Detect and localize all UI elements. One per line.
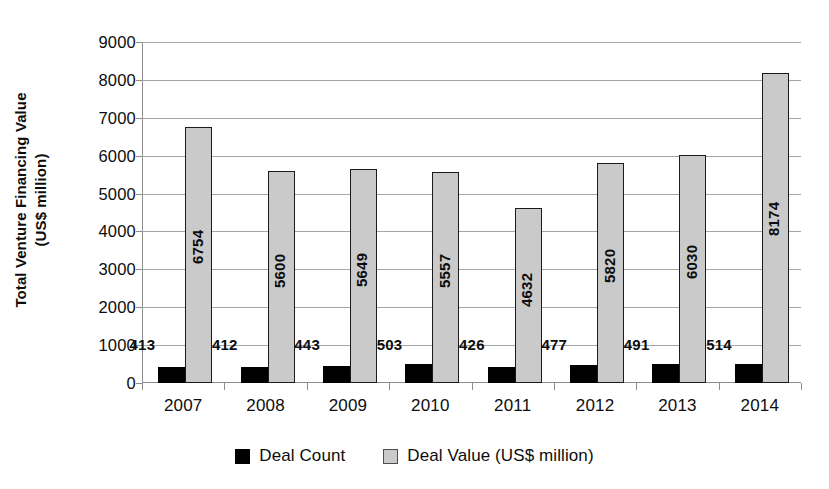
data-label-deal-count: 514	[706, 336, 732, 353]
bar-deal-count	[158, 367, 185, 383]
x-tick-label: 2013	[658, 396, 697, 416]
y-tick-label: 1000	[62, 336, 136, 355]
legend-item[interactable]: Deal Value (US$ million)	[383, 446, 593, 466]
y-tick-label: 6000	[62, 146, 136, 165]
data-label-deal-count: 491	[624, 336, 650, 353]
y-axis-title-line2: (US$ million)	[31, 92, 51, 307]
y-axis-title-line1: Total Venture Financing Value	[12, 92, 29, 307]
data-label-deal-value: 5649	[353, 252, 370, 286]
data-label-deal-value: 4632	[518, 273, 535, 307]
plot-area: 4136754412560044356495035557426463247758…	[142, 42, 801, 383]
data-label-deal-count: 426	[459, 336, 485, 353]
bar-group: 4435649	[307, 42, 389, 383]
data-label-deal-value: 8174	[765, 202, 782, 236]
data-label-deal-count: 477	[541, 336, 567, 353]
y-axis-title: Total Venture Financing Value (US$ milli…	[0, 0, 62, 400]
bar-deal-count	[735, 364, 762, 383]
legend-swatch-deal-value-icon	[383, 449, 398, 464]
data-label-deal-value: 5600	[271, 253, 288, 287]
data-label-deal-count: 412	[212, 336, 238, 353]
legend-label: Deal Count	[259, 446, 345, 466]
x-tick-mark	[389, 383, 390, 390]
bar-deal-count	[323, 366, 350, 383]
legend-swatch-deal-count-icon	[235, 449, 250, 464]
bar-deal-count	[570, 365, 597, 383]
data-label-deal-value: 5557	[436, 254, 453, 288]
bar-chart: Total Venture Financing Value (US$ milli…	[0, 0, 829, 489]
x-tick-mark	[307, 383, 308, 390]
x-tick-label: 2007	[164, 396, 203, 416]
x-tick-mark	[801, 383, 802, 390]
bar-group: 5148174	[719, 42, 801, 383]
data-label-deal-count: 503	[377, 336, 403, 353]
legend-label: Deal Value (US$ million)	[407, 446, 593, 466]
y-tick-label: 3000	[62, 260, 136, 279]
bar-deal-count	[405, 364, 432, 383]
bar-group: 4136754	[142, 42, 224, 383]
data-label-deal-count: 413	[130, 336, 156, 353]
bar-deal-count	[488, 367, 515, 383]
x-tick-mark	[142, 383, 143, 390]
legend-item[interactable]: Deal Count	[235, 446, 345, 466]
data-label-deal-value: 6030	[683, 245, 700, 279]
y-tick-label: 5000	[62, 184, 136, 203]
y-axis-tick-labels: 0100020003000400050006000700080009000	[58, 0, 136, 489]
x-tick-mark	[224, 383, 225, 390]
bar-group: 4916030	[636, 42, 718, 383]
bar-group: 4264632	[472, 42, 554, 383]
x-tick-mark	[719, 383, 720, 390]
y-tick-label: 0	[62, 374, 136, 393]
bar-deal-count	[652, 364, 679, 383]
y-tick-label: 9000	[62, 33, 136, 52]
bar-group: 4125600	[224, 42, 306, 383]
x-tick-mark	[636, 383, 637, 390]
data-label-deal-value: 5820	[601, 249, 618, 283]
y-tick-label: 4000	[62, 222, 136, 241]
chart-legend: Deal CountDeal Value (US$ million)	[0, 446, 829, 466]
x-tick-label: 2014	[741, 396, 780, 416]
x-tick-mark	[554, 383, 555, 390]
y-tick-label: 2000	[62, 298, 136, 317]
x-tick-label: 2008	[246, 396, 285, 416]
x-tick-label: 2009	[329, 396, 368, 416]
data-label-deal-value: 6754	[189, 230, 206, 264]
x-tick-label: 2010	[411, 396, 450, 416]
x-tick-label: 2011	[494, 396, 531, 416]
x-tick-mark	[472, 383, 473, 390]
bar-group: 5035557	[389, 42, 471, 383]
y-tick-label: 7000	[62, 108, 136, 127]
data-label-deal-count: 443	[294, 336, 320, 353]
bar-group: 4775820	[554, 42, 636, 383]
y-tick-label: 8000	[62, 70, 136, 89]
bar-deal-count	[241, 367, 268, 383]
x-tick-label: 2012	[576, 396, 615, 416]
